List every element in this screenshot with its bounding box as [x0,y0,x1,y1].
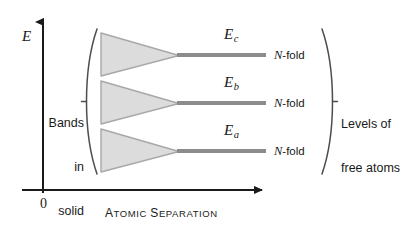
energy-symbol-a: E [224,122,233,138]
energy-level-label-c: Ec [224,26,238,45]
degeneracy-label-a: N-fold [274,144,305,159]
bands-in-solid-annotation: Bands in solid [8,86,84,235]
x-axis-label-second-small: EPARATION [159,208,218,219]
bands-in-solid-line-3: solid [8,204,84,219]
energy-band-diagram: E 0 ATOMIC SEPARATION Bands in solid Lev… [0,0,417,235]
degeneracy-suffix-b: -fold [282,97,304,109]
y-axis-label: E [22,28,31,46]
x-axis-label-second-lead: S [150,206,159,220]
band-c-group [101,33,266,76]
degeneracy-label-c: N-fold [274,48,305,63]
band-b-wedge [101,81,179,124]
degeneracy-suffix-a: -fold [282,145,304,157]
levels-of-free-atoms-line-2: free atoms [341,161,417,176]
energy-subscript-b: b [233,81,239,92]
bands-in-solid-line-2: in [8,160,84,175]
energy-symbol-b: E [224,74,233,90]
x-axis-label-lead: A [105,206,114,220]
band-a-wedge [101,129,179,172]
band-c-wedge [101,33,179,76]
band-a-group [101,129,266,172]
right-brace-icon [322,29,338,174]
bands-in-solid-line-1: Bands [8,116,84,131]
band-b-group [101,81,266,124]
energy-level-label-b: Eb [224,74,239,93]
x-axis-label: ATOMIC SEPARATION [105,206,218,220]
energy-subscript-a: a [233,129,239,140]
energy-level-label-a: Ea [224,122,239,141]
levels-of-free-atoms-line-1: Levels of [341,117,417,132]
levels-of-free-atoms-annotation: Levels of free atoms [341,87,417,205]
degeneracy-suffix-c: -fold [282,49,304,61]
energy-symbol-c: E [224,26,233,42]
energy-subscript-c: c [233,33,238,44]
x-axis-label-small: TOMIC [114,208,147,219]
degeneracy-label-b: N-fold [274,96,305,111]
